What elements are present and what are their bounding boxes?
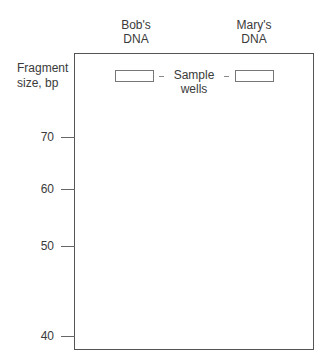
sample-well-bob [115,70,154,82]
lane-label-mary: Mary's DNA [214,18,294,46]
lane-label-bob-line2: DNA [96,32,176,46]
sample-wells-label-line1: Sample [164,68,224,82]
lane-label-bob-line1: Bob's [96,18,176,32]
tick-mark-50 [61,246,75,247]
lane-label-bob: Bob's DNA [96,18,176,46]
sample-wells-label-line2: wells [164,82,224,96]
axis-title-line2: size, bp [17,76,68,91]
gel-frame [74,53,314,350]
tick-label-50: 50 [24,239,54,253]
tick-label-70: 70 [24,130,54,144]
tick-mark-40 [61,336,75,337]
sample-well-mary [235,70,274,82]
axis-title-line1: Fragment [17,61,68,76]
lane-label-mary-line1: Mary's [214,18,294,32]
tick-mark-60 [61,189,75,190]
lane-label-mary-line2: DNA [214,32,294,46]
sample-wells-label: Sample wells [164,68,224,96]
tick-label-40: 40 [24,329,54,343]
tick-label-60: 60 [24,182,54,196]
axis-title: Fragment size, bp [17,61,68,91]
tick-mark-70 [61,137,75,138]
